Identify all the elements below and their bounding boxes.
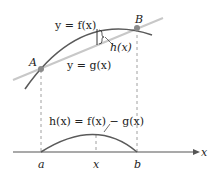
tick-b-label: b <box>134 158 141 171</box>
x-axis-arrow-icon <box>193 149 200 155</box>
tick-x-label: x <box>93 158 100 171</box>
h-formula-label: h(x) = f(x) − g(x) <box>49 115 144 128</box>
point-a-label: A <box>28 56 37 69</box>
point-a-marker <box>38 66 44 72</box>
h-bracket-label: h(x) <box>110 41 132 54</box>
point-b-label: B <box>134 13 143 26</box>
g-line-label: y = g(x) <box>66 59 111 72</box>
diagram: y = f(x) y = g(x) h(x) A B h(x) = f(x) −… <box>0 0 218 174</box>
f-curve-label: y = f(x) <box>54 19 96 32</box>
axis-x-label: x <box>201 146 208 159</box>
diagram-canvas: y = f(x) y = g(x) h(x) A B h(x) = f(x) −… <box>0 0 218 174</box>
h-curve <box>41 135 137 153</box>
tick-a-label: a <box>38 158 45 171</box>
